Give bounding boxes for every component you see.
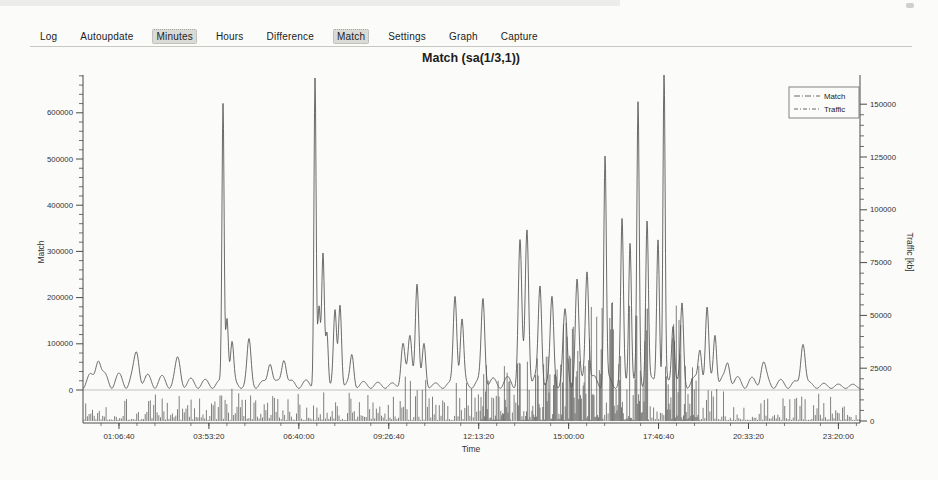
left-tick-label: 200000 (47, 293, 74, 302)
x-tick-label: 20:33:20 (733, 432, 765, 441)
right-tick-label: 0 (870, 417, 875, 426)
left-tick-label: 300000 (47, 247, 74, 256)
left-tick-label: 600000 (47, 108, 74, 117)
legend: MatchTraffic (789, 87, 859, 118)
match-line (83, 75, 860, 388)
right-tick-label: 25000 (870, 364, 892, 373)
right-tick-label: 75000 (870, 258, 892, 267)
left-tick-label: 100000 (47, 339, 74, 348)
x-tick-label: 01:06:40 (103, 432, 135, 441)
right-axis-title: Traffic [kb] (905, 232, 915, 271)
match-series (83, 75, 860, 388)
app-window: LogAutoupdateMinutesHoursDifferenceMatch… (0, 0, 938, 480)
right-tick-label: 125000 (870, 153, 897, 162)
x-tick-label: 03:53:20 (193, 432, 225, 441)
left-axis-title: Match (36, 240, 46, 263)
x-tick-label: 06:40:00 (283, 432, 315, 441)
x-tick-label: 17:46:40 (643, 432, 675, 441)
match-traffic-chart: Match (sa(1/3,1)) Match Traffic [kb] Tim… (0, 0, 938, 480)
axes: 0100000200000300000400000500000600000025… (47, 75, 897, 441)
chart-title: Match (sa(1/3,1)) (422, 51, 520, 65)
legend-label: Match (824, 92, 845, 101)
left-tick-label: 0 (69, 386, 74, 395)
x-tick-label: 15:00:00 (553, 432, 585, 441)
traffic-impulses (84, 302, 860, 421)
x-tick-label: 12:13:20 (463, 432, 495, 441)
right-tick-label: 100000 (870, 205, 897, 214)
right-tick-label: 150000 (870, 100, 897, 109)
right-tick-label: 50000 (870, 311, 892, 320)
left-tick-label: 500000 (47, 155, 74, 164)
x-tick-label: 23:20:00 (823, 432, 855, 441)
x-axis-title: Time (462, 444, 481, 454)
legend-label: Traffic (824, 105, 845, 114)
traffic-series (84, 302, 860, 421)
left-tick-label: 400000 (47, 201, 74, 210)
x-tick-label: 09:26:40 (373, 432, 405, 441)
